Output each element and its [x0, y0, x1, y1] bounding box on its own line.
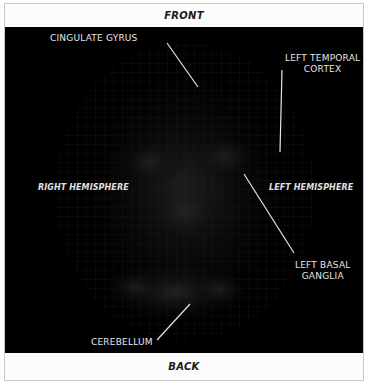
left-temporal-cortex-label: LEFT TEMPORAL CORTEX	[285, 53, 360, 75]
back-label: BACK	[5, 353, 363, 380]
cerebellum-label: CEREBELLUM	[91, 337, 153, 348]
left-hemisphere-label: LEFT HEMISPHERE	[269, 183, 353, 192]
left-temporal-cortex-line2: CORTEX	[285, 64, 360, 75]
cingulate-gyrus-label: CINGULATE GYRUS	[50, 33, 138, 44]
brain-scan-figure: FRONT	[4, 3, 364, 381]
left-basal-ganglia-line1: LEFT BASAL	[295, 260, 350, 271]
brain-scan-image: CINGULATE GYRUS LEFT TEMPORAL CORTEX RIG…	[5, 27, 363, 353]
right-hemisphere-label: RIGHT HEMISPHERE	[38, 183, 129, 192]
left-temporal-cortex-line1: LEFT TEMPORAL	[285, 53, 360, 64]
front-label: FRONT	[5, 4, 363, 27]
left-basal-ganglia-label: LEFT BASAL GANGLIA	[295, 260, 350, 282]
left-basal-ganglia-line2: GANGLIA	[295, 271, 350, 282]
